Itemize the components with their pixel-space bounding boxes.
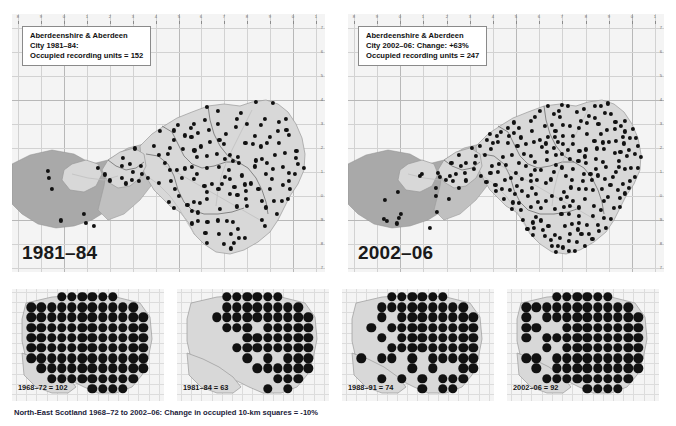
map-panel-2002-06: 8901234567890176543210987 Aberdeenshire … xyxy=(348,14,664,272)
legend-line-1: Aberdeenshire & Aberdeen xyxy=(366,31,479,41)
mini-label-1988-91: 1988–91 = 74 xyxy=(348,383,393,392)
legend-line-2: City 1981–84: xyxy=(30,41,143,51)
mini-label-1968-72: 1968–72 = 102 xyxy=(18,383,68,392)
legend-box-2002-06: Aberdeenshire & Aberdeen City 2002–06: C… xyxy=(358,26,487,66)
distribution-map-figure: 8901234567890176543210987 Aberdeenshire … xyxy=(0,0,676,426)
legend-box-1981-84: Aberdeenshire & Aberdeen City 1981–84: O… xyxy=(22,26,151,66)
legend-units-label: Occupied recording units = xyxy=(30,51,131,60)
legend-change-label: City 2002–06: Change: xyxy=(366,41,449,50)
legend-units-value: 247 xyxy=(467,51,480,60)
legend-line-2: City 2002–06: Change: +63% xyxy=(366,41,479,51)
legend-units-value: 152 xyxy=(131,51,144,60)
mini-label-2002-06: 2002–06 = 92 xyxy=(513,383,558,392)
legend-line-3: Occupied recording units = 152 xyxy=(30,51,143,61)
legend-change-value: +63% xyxy=(449,41,469,50)
year-label-2002-06: 2002–06 xyxy=(358,242,433,264)
map-panel-1981-84: 8901234567890176543210987 Aberdeenshire … xyxy=(12,14,325,272)
legend-units-label: Occupied recording units = xyxy=(366,51,467,60)
year-label-1981-84: 1981–84 xyxy=(22,242,97,264)
mini-label-1981-84: 1981–84 = 63 xyxy=(183,383,228,392)
legend-line-1: Aberdeenshire & Aberdeen xyxy=(30,31,143,41)
legend-line-3: Occupied recording units = 247 xyxy=(366,51,479,61)
figure-caption: North-East Scotland 1968–72 to 2002–06: … xyxy=(14,408,318,417)
